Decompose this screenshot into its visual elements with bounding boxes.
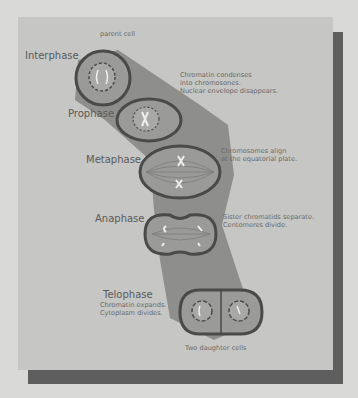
interphase-cell [76, 51, 130, 105]
parent-cell-label: parent cell [100, 31, 135, 39]
anaphase-cell [145, 215, 216, 255]
metaphase-description: Chromosomes align at the equatorial plat… [221, 148, 297, 164]
telophase-label: Telophase [103, 289, 153, 301]
anaphase-label: Anaphase [95, 213, 144, 225]
telophase-daughter-cells [180, 290, 262, 334]
daughter-cells-label: Two daughter cells [185, 345, 246, 353]
metaphase-cell [140, 146, 220, 198]
metaphase-label: Metaphase [86, 154, 141, 166]
telophase-description: Chromatin expands. Cytoplasm divides. [100, 302, 167, 318]
anaphase-description: Sister chromatids separate. Centomeres d… [223, 214, 314, 230]
prophase-description: Chromatin condenses into chromosones. Nu… [180, 72, 278, 96]
interphase-label: Interphase [25, 50, 79, 62]
prophase-label: Prophase [68, 108, 114, 120]
prophase-cell [117, 99, 181, 141]
